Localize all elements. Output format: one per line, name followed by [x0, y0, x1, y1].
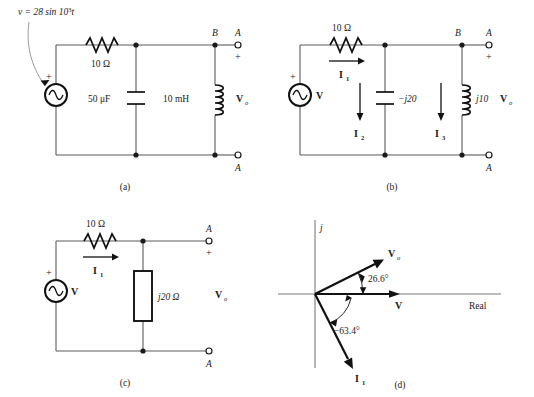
inductor-label-a: 10 mH: [163, 94, 189, 104]
panel-a-time-domain-circuit: 10 Ω 50 μF 10 mH + B A A + V: [0, 0, 267, 199]
node-label-b-a: B: [212, 28, 218, 38]
terminal-label-bottom-b: A: [485, 163, 492, 173]
node-label-b-b: B: [455, 28, 461, 38]
output-voltage-label-c: V: [215, 289, 223, 300]
output-voltage-label-a: V: [236, 93, 244, 104]
phasor-label-v: V: [395, 300, 403, 311]
output-voltage-sub-c: o: [224, 295, 228, 302]
output-polarity-plus-c: +: [206, 247, 212, 258]
current-sub-i1-b: 1: [346, 75, 349, 82]
node-dot: [133, 42, 138, 47]
output-polarity-plus-a: +: [235, 51, 241, 62]
panel-d-phasor-diagram: j Real V o V I 1 26.6°: [267, 199, 534, 397]
terminal-label-bottom-a: A: [234, 163, 241, 173]
current-sub-i1-c: 1: [100, 271, 103, 278]
terminal-label-bottom-c: A: [205, 359, 212, 369]
source-label-b: V: [316, 90, 324, 101]
current-arrow-i2-b: [357, 83, 364, 121]
terminal-label-top-b: A: [485, 28, 492, 38]
current-label-i2-b: I: [354, 128, 358, 139]
circuit-wires-c: [56, 241, 209, 351]
current-label-i1-c: I: [93, 265, 97, 276]
inductor-label-b: j10: [474, 94, 488, 104]
capacitor-50uF-a: [127, 92, 145, 104]
node-dot: [212, 42, 217, 47]
terminal-open-top-a: [235, 42, 241, 48]
resistor-label-a: 10 Ω: [91, 59, 110, 69]
angle-label-i1: −63.4°: [334, 326, 360, 336]
axis-label-real: Real: [469, 301, 487, 311]
source-expression-a: v = 28 sin 103t: [18, 6, 74, 18]
source-label-c: V: [71, 286, 79, 297]
capacitor-label-a: 50 μF: [88, 94, 110, 104]
circuit-wires-b: [300, 45, 489, 155]
terminal-open-top-c: [206, 238, 212, 244]
panel-caption-d: (d): [394, 380, 405, 391]
node-dot: [212, 152, 217, 157]
node-dot: [140, 238, 145, 243]
phasor-label-vo: V: [388, 248, 396, 259]
inductor-j10-b: [462, 85, 470, 115]
phasor-label-i1: I: [355, 373, 359, 384]
terminal-label-top-c: A: [205, 224, 212, 234]
output-polarity-plus-b: +: [486, 51, 492, 62]
node-dot: [382, 42, 387, 47]
phasor-vector-v: [315, 290, 400, 298]
axis-label-imaginary: j: [318, 223, 323, 233]
capacitor-minusj20-b: [376, 92, 394, 104]
panel-caption-a: (a): [120, 182, 131, 193]
angle-indicator-i1: [330, 295, 353, 327]
capacitor-label-b: −j20: [398, 94, 417, 104]
current-sub-i3-b: 3: [442, 134, 446, 141]
angle-label-vo: 26.6°: [368, 274, 389, 284]
terminal-open-bottom-c: [206, 348, 212, 354]
circuit-wires-a: [56, 45, 238, 155]
panel-b-phasor-domain-circuit: 10 Ω I 1 −j20 I 2 j10 I 3: [267, 0, 534, 199]
terminal-open-top-b: [486, 42, 492, 48]
node-dot: [459, 42, 464, 47]
resistor-label-b: 10 Ω: [332, 23, 351, 33]
resistor-label-c: 10 Ω: [86, 219, 105, 229]
current-label-i3-b: I: [435, 128, 439, 139]
output-voltage-label-b: V: [500, 93, 508, 104]
output-voltage-sub-a: o: [245, 99, 249, 106]
impedance-label-c: j20 Ω: [156, 292, 180, 302]
current-arrow-i1-b: [329, 58, 365, 65]
node-dot: [459, 152, 464, 157]
panel-caption-c: (c): [120, 378, 131, 389]
node-dot: [140, 348, 145, 353]
ac-source-a: [45, 84, 67, 106]
current-arrow-i1-c: [83, 254, 119, 261]
node-dot: [133, 152, 138, 157]
angle-indicator-vo: [358, 273, 366, 295]
ac-source-c: [45, 280, 67, 302]
node-dot: [382, 152, 387, 157]
phasor-sub-vo: o: [397, 254, 401, 261]
current-sub-i2-b: 2: [361, 134, 364, 141]
panel-caption-b: (b): [386, 182, 397, 193]
phasor-sub-i1: 1: [362, 379, 365, 386]
panel-c-simplified-circuit: 10 Ω I 1 j20 Ω + V A A + V o (c): [0, 199, 267, 397]
terminal-open-bottom-b: [486, 152, 492, 158]
terminal-open-bottom-a: [235, 152, 241, 158]
terminal-label-top-a: A: [234, 28, 241, 38]
current-label-i1-b: I: [339, 69, 343, 80]
output-voltage-sub-b: o: [509, 99, 513, 106]
current-arrow-i3-b: [438, 83, 445, 121]
impedance-box-j20-c: [134, 271, 152, 321]
source-polarity-plus-b: +: [290, 71, 296, 82]
ac-source-b: [289, 84, 311, 106]
inductor-10mH-a: [215, 85, 223, 115]
source-polarity-plus-c: +: [46, 267, 52, 278]
